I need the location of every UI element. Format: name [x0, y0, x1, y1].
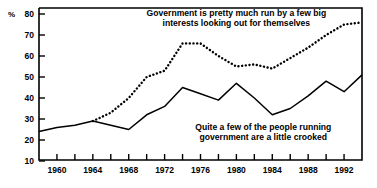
- x-tick-label: 1968: [119, 165, 138, 175]
- x-tick-label: 1992: [335, 165, 354, 175]
- x-tick-label: 1972: [155, 165, 174, 175]
- y-tick-label: 60: [25, 51, 35, 61]
- y-tick-label: 80: [25, 9, 35, 19]
- chart-figure: 8070605040302010 19601964196819721976198…: [0, 0, 377, 188]
- y-tick-label: 30: [25, 114, 35, 124]
- y-tick-label: 70: [25, 30, 35, 40]
- x-tick-label: 1960: [47, 165, 66, 175]
- line-chart: 8070605040302010 19601964196819721976198…: [0, 0, 377, 188]
- y-tick-label: 40: [25, 93, 35, 103]
- x-tick-label: 1980: [227, 165, 246, 175]
- x-axis-tick-labels: 196019641968197219761980198419881992: [47, 165, 353, 175]
- annotation-dotted-line-0: Government is pretty much run by a few b…: [147, 8, 327, 18]
- x-tick-label: 1976: [191, 165, 210, 175]
- x-tick-label: 1988: [299, 165, 318, 175]
- y-tick-label: 10: [25, 156, 35, 166]
- y-tick-label: 50: [25, 72, 35, 82]
- y-axis-title: %: [8, 10, 15, 19]
- y-tick-label: 20: [25, 135, 35, 145]
- annotation-dotted: Government is pretty much run by a few b…: [147, 8, 327, 28]
- annotation-solid-line-1: government are a little crooked: [200, 132, 328, 142]
- annotation-dotted-line-1: interests looking out for themselves: [163, 18, 311, 28]
- annotation-solid: Quite a few of the people runninggovernm…: [195, 122, 331, 142]
- annotation-solid-line-0: Quite a few of the people running: [195, 122, 331, 132]
- x-tick-label: 1964: [83, 165, 102, 175]
- x-tick-label: 1984: [263, 165, 282, 175]
